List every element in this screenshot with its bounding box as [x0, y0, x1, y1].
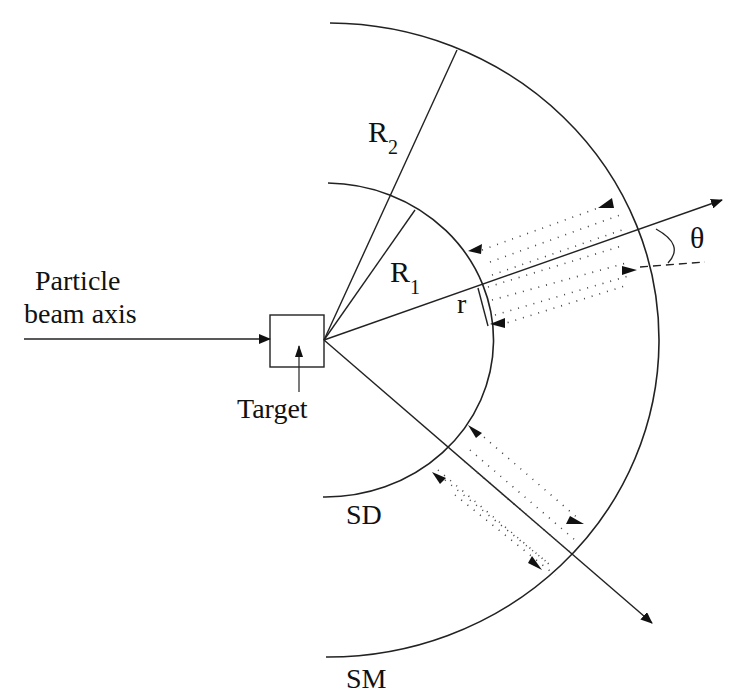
lower-dotted-trajectories — [438, 432, 580, 575]
inner-arc-sd — [323, 183, 494, 497]
r2-label: R — [368, 115, 388, 148]
beam-label-line2: beam axis — [24, 298, 137, 329]
upper-dotted-trajectories — [482, 203, 632, 325]
lower-arrowhead-in-2 — [432, 472, 446, 484]
r1-label: R — [390, 255, 410, 288]
upper-arrowhead-out — [598, 198, 614, 208]
radius-r2-line — [324, 50, 457, 340]
sm-label: SM — [346, 663, 387, 694]
beam-label-line1: Particle — [35, 265, 121, 296]
theta-angle-arc — [656, 229, 674, 263]
r1-subscript: 1 — [410, 276, 420, 298]
r-label: r — [457, 288, 467, 319]
lower-arrowhead-out-2 — [528, 556, 542, 570]
upper-arrowhead-out-2 — [622, 266, 637, 275]
target-box — [270, 315, 324, 367]
detector-diagram: Particle beam axis Target R 2 R 1 r θ SD… — [0, 0, 743, 700]
upper-arrowhead-in — [468, 244, 482, 254]
r2-subscript: 2 — [388, 136, 398, 158]
target-label: Target — [237, 393, 308, 424]
sd-label: SD — [346, 499, 382, 530]
lower-arrowhead-in — [468, 425, 482, 438]
lower-arrowhead-out — [566, 516, 584, 524]
theta-ray-arrow — [324, 200, 722, 340]
theta-label: θ — [690, 221, 704, 254]
